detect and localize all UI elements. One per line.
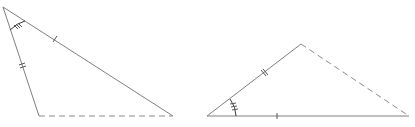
angle-arc-icon [230, 99, 238, 116]
angle-arc-icon [10, 21, 25, 30]
sas-triangles-diagram [0, 0, 415, 127]
right-side-de [207, 44, 301, 116]
right-side-ef-dashed [301, 44, 409, 116]
left-side-ab [3, 7, 39, 116]
left-triangle [3, 7, 173, 116]
left-side-ac [3, 7, 173, 116]
right-triangle [207, 44, 409, 119]
